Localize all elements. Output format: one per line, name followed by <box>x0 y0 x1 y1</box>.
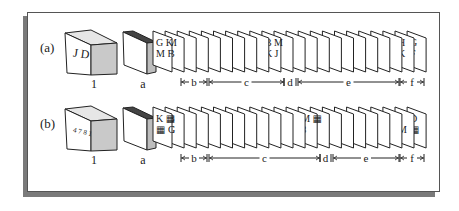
labeled-card: G KM F <box>153 31 174 72</box>
segment-label: f <box>410 76 414 88</box>
segment-label: c <box>262 152 267 164</box>
segment-label: f <box>410 152 414 164</box>
segment-label: b <box>191 76 197 88</box>
segment-label: e <box>364 152 369 164</box>
deck-caption: a <box>140 153 146 167</box>
segment-label: d <box>287 76 293 88</box>
card-text: G K <box>156 37 174 48</box>
segment-label: c <box>244 76 249 88</box>
segment-label: e <box>346 76 351 88</box>
card-text: M F <box>156 48 173 59</box>
box-caption: 1 <box>91 77 97 91</box>
diagram-canvas: (a)J D1aGFHKB MK JMBG KM Fbcdef (b)4 7 8… <box>0 0 459 211</box>
segment-label: d <box>323 152 329 164</box>
frame-shadow-bottom <box>23 192 435 197</box>
row-label: (b) <box>40 116 55 131</box>
row-label: (a) <box>40 40 54 55</box>
diagram-figure: (a)J D1aGFHKB MK JMBG KM Fbcdef (b)4 7 8… <box>0 0 459 211</box>
box-text: J D <box>72 46 90 62</box>
deck-caption: a <box>140 77 146 91</box>
labeled-card: K ▦▦ G <box>153 107 175 148</box>
card-text: K ▦ <box>156 113 175 124</box>
segment-label: b <box>191 152 197 164</box>
box-caption: 1 <box>91 153 97 167</box>
card-text: ▦ G <box>156 124 175 135</box>
